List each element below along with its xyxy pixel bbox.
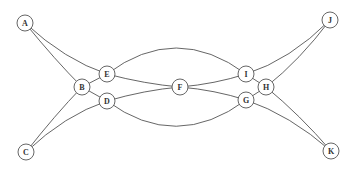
node-label: C [23,148,29,157]
edge-i-j [246,20,330,74]
node-b: B [74,79,90,95]
edge-e-f [107,74,180,87]
node-i: I [238,66,254,82]
node-label: E [104,70,109,79]
edge-a-b [25,23,82,87]
node-f: F [172,79,188,95]
node-c: C [18,144,34,160]
node-label: I [244,70,247,79]
node-g: G [238,92,254,108]
node-h: H [258,79,274,95]
edge-h-j [266,20,330,87]
edge-f-i [180,74,246,87]
node-j: J [322,12,338,28]
node-d: D [99,93,115,109]
node-e: E [99,66,115,82]
node-label: A [22,19,28,28]
node-label: J [328,16,332,25]
node-label: H [263,83,270,92]
node-label: D [104,97,110,106]
nodes-layer: ABCDEFGHIJK [17,12,339,160]
node-label: K [328,147,335,156]
edge-f-g [180,87,246,100]
edge-e-i [107,48,246,74]
edge-c-d [26,101,107,152]
edge-a-e [25,23,107,74]
node-k: K [323,143,339,159]
edge-g-k [246,100,331,151]
edge-h-k [266,87,331,151]
edge-d-g [107,100,246,126]
graph-diagram: ABCDEFGHIJK [0,0,356,171]
edge-c-b [26,87,82,152]
node-label: F [178,83,183,92]
node-label: G [243,96,249,105]
node-a: A [17,15,33,31]
edge-d-f [107,87,180,101]
node-label: B [79,83,85,92]
